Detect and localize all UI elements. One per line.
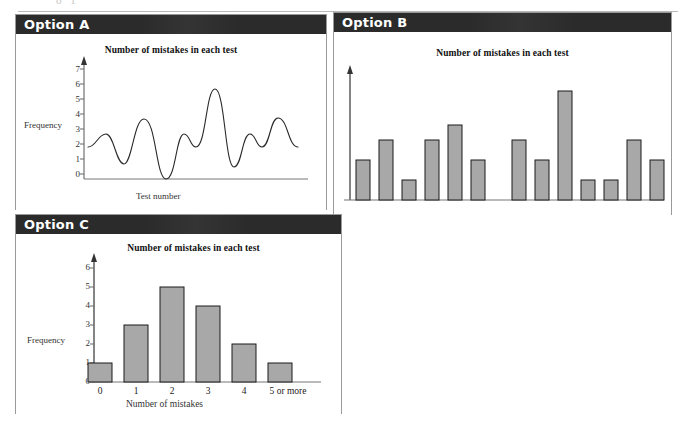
y-axis-arrow-icon-b	[347, 65, 353, 74]
y-axis-arrow-icon-a	[81, 56, 87, 65]
option-c-panel[interactable]: Option C Number of mistakes in each test…	[15, 214, 342, 414]
bar-group-c	[88, 287, 292, 382]
option-a-header: Option A	[16, 15, 326, 34]
bar-b-13	[650, 160, 664, 200]
figure-page: o 1 Option A Number of mistakes in each …	[0, 0, 687, 428]
bar-b-12	[627, 140, 641, 200]
line-chart-a	[16, 34, 328, 210]
bar-b-3	[402, 180, 416, 200]
bar-c-1	[124, 325, 148, 382]
bar-c-3	[196, 306, 220, 382]
bar-b-2	[379, 140, 393, 200]
bar-b-8	[535, 160, 549, 200]
option-b-panel[interactable]: Option B Number of mistakes in each test	[333, 12, 672, 215]
bar-chart-b	[334, 32, 673, 215]
bar-b-4	[425, 140, 439, 200]
y-tick-marks-a	[80, 69, 84, 174]
bar-c-2	[160, 287, 184, 382]
bar-c-5	[268, 363, 292, 382]
bar-b-7	[512, 140, 526, 200]
clipped-text-fragment: o 1	[56, 0, 79, 6]
bar-b-1	[356, 160, 370, 200]
bar-b-5	[448, 125, 462, 200]
bar-c-4	[232, 344, 256, 382]
frequency-polygon-line-a	[88, 89, 298, 179]
option-b-body: Number of mistakes in each test	[334, 32, 671, 215]
bar-chart-c	[16, 234, 343, 414]
bar-b-10	[581, 180, 595, 200]
option-a-panel[interactable]: Option A Number of mistakes in each test…	[15, 14, 327, 210]
bar-group-b	[356, 91, 664, 200]
option-a-body: Number of mistakes in each test Frequenc…	[16, 34, 326, 210]
option-c-body: Number of mistakes in each test Frequenc…	[16, 234, 341, 414]
bar-b-9	[558, 91, 572, 200]
y-axis-arrow-icon-c	[91, 253, 97, 262]
bar-c-0	[88, 363, 112, 382]
bar-b-11	[604, 180, 618, 200]
bar-b-6	[471, 160, 485, 200]
option-c-header: Option C	[16, 215, 341, 234]
option-b-header: Option B	[334, 13, 671, 32]
